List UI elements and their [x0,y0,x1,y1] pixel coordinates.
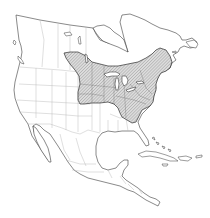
land-mass [14,14,197,206]
cuba-island [138,151,178,161]
jamaica-island [162,164,168,166]
haida-gwaii-island [13,40,16,45]
bahamas-islands [152,137,171,152]
map-canvas [0,0,210,218]
puerto-rico-island [196,155,202,158]
range-map [0,0,210,218]
hispaniola-island [178,156,192,161]
lake-michigan [115,78,119,90]
